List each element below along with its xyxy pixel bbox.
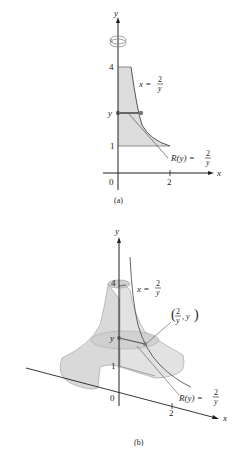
x-axis-label-a: x: [216, 168, 221, 178]
tick-label-2-b: 2: [169, 408, 174, 418]
curve-label-a: x =: [138, 79, 151, 89]
radius-label-a: R(y) =: [170, 153, 195, 163]
curve-label-num-a: 2: [158, 75, 162, 84]
point-label-num: 2: [176, 307, 180, 316]
x-axis-arrow-icon: [212, 415, 219, 419]
radius-label-den-b: y: [213, 397, 218, 406]
y-axis-arrow-icon: [117, 237, 121, 243]
tick-label-4-a: 4: [109, 62, 114, 72]
x-axis-arrow-icon: [208, 171, 214, 175]
figure-b: y x 4 y 1 0 2 x = 2 y ( 2 y , y ) R(y) =…: [26, 226, 227, 447]
tick-label-4-b: 4: [111, 278, 116, 288]
x-axis-label-b: x: [222, 413, 227, 423]
y-axis-label-a: y: [113, 8, 118, 18]
point-label-y: , y: [182, 312, 190, 321]
radius-label-num-b: 2: [214, 388, 218, 397]
caption-b: (b): [134, 438, 144, 447]
tick-label-2-a: 2: [167, 177, 172, 187]
origin-label-b: 0: [110, 393, 115, 403]
point-label-den: y: [175, 316, 180, 325]
point-curve: [139, 111, 143, 115]
curve-label-den-b: y: [155, 288, 160, 297]
curve-label-b: x =: [136, 284, 149, 294]
caption-a: (a): [114, 196, 123, 205]
figure-a: y x 4 y 1 0 2 x = 2 y R(y) = 2 y (a): [103, 8, 221, 205]
tick-label-1-b: 1: [111, 361, 116, 371]
radius-label-b: R(y) =: [178, 393, 203, 403]
radius-label-num-a: 2: [206, 149, 210, 158]
curve-label-den-a: y: [157, 84, 162, 93]
tick-label-1-a: 1: [110, 141, 115, 151]
point-curve-b: [143, 342, 147, 346]
tick-label-y-b: y: [109, 333, 114, 343]
radius-label-den-a: y: [205, 158, 210, 167]
point-label-close-paren: ): [194, 307, 199, 323]
origin-label-a: 0: [109, 177, 114, 187]
y-axis-label-b: y: [114, 226, 119, 236]
figure-canvas: y x 4 y 1 0 2 x = 2 y R(y) = 2 y (a): [0, 0, 242, 467]
tick-label-y-a: y: [107, 108, 112, 118]
curve-label-num-b: 2: [156, 279, 160, 288]
